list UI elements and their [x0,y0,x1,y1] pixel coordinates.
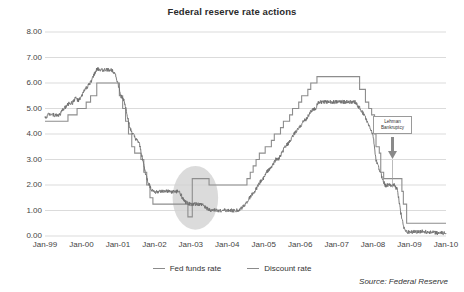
y-axis-tick-label: 0.00 [8,232,42,240]
series-line-fed-funds-rate [45,68,446,235]
chart-title: Federal reserve rate actions [0,6,464,17]
lehman-bankruptcy-annotation: Lehman Bankruptcy [373,116,412,134]
y-axis-tick-label: 1.00 [8,207,42,215]
legend-label-fed-funds-rate: Fed funds rate [170,264,222,273]
y-axis-tick-label: 3.00 [8,156,42,164]
annotation-line-2: Bankruptcy [381,125,404,131]
y-axis-tick-label: 4.00 [8,130,42,138]
y-axis-tick-label: 8.00 [8,28,42,36]
legend-dash-icon [153,268,165,269]
chart-container: Federal reserve rate actions 8.007.006.0… [0,0,464,292]
y-axis-tick-label: 5.00 [8,105,42,113]
legend-label-discount-rate: Discount rate [264,264,311,273]
y-axis-tick-label: 2.00 [8,181,42,189]
source-caption: Source: Federal Reserve [359,277,448,286]
y-axis-tick-label: 6.00 [8,79,42,87]
legend-item-fed-funds-rate: Fed funds rate [153,264,222,273]
x-axis-tick-label: Jan-10 [424,240,464,249]
series-line-discount-rate [45,77,446,224]
annotation-arrow-head [388,151,397,159]
trough-highlight-ellipse [173,166,219,230]
y-axis-tick-label: 7.00 [8,54,42,62]
chart-legend: Fed funds rate Discount rate [0,264,464,273]
legend-dash-icon [247,268,259,269]
legend-item-discount-rate: Discount rate [247,264,311,273]
